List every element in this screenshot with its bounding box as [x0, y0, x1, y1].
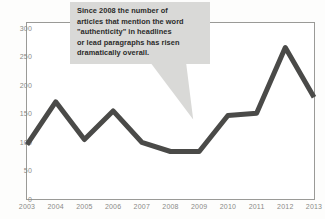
x-tick-2006: 2006: [98, 203, 128, 210]
chart-root: 050100150200250300 200320042005200620072…: [0, 0, 325, 219]
x-tick-2005: 2005: [69, 203, 99, 210]
x-tick-2004: 2004: [41, 203, 71, 210]
y-tick-200: 200: [8, 82, 32, 90]
x-tick-2013: 2013: [299, 203, 325, 210]
x-tick-2011: 2011: [242, 203, 272, 210]
x-tick-2010: 2010: [213, 203, 243, 210]
y-tick-100: 100: [8, 139, 32, 147]
y-tick-150: 150: [8, 110, 32, 118]
y-tick-300: 300: [8, 25, 32, 33]
x-tick-2003: 2003: [12, 203, 42, 210]
annotation-callout-text: Since 2008 the number of articles that m…: [77, 6, 204, 59]
y-tick-250: 250: [8, 53, 32, 61]
x-tick-2008: 2008: [156, 203, 186, 210]
y-tick-50: 50: [8, 167, 32, 175]
x-tick-2009: 2009: [184, 203, 214, 210]
annotation-callout: Since 2008 the number of articles that m…: [70, 2, 210, 64]
x-tick-2007: 2007: [127, 203, 157, 210]
x-tick-2012: 2012: [270, 203, 300, 210]
